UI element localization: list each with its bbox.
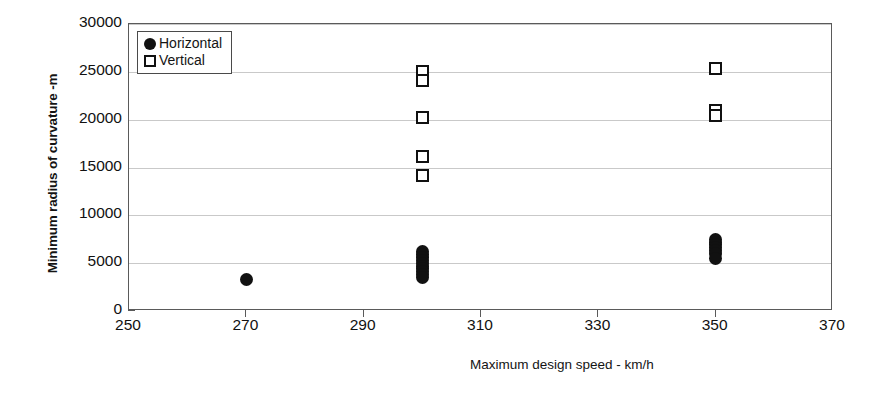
filled-circle-icon: [144, 38, 156, 50]
data-point-vertical: [709, 109, 722, 122]
y-tick-label-5000: 5000: [56, 252, 122, 270]
legend-item-label: Vertical: [159, 53, 205, 68]
data-point-vertical: [709, 62, 722, 75]
legend-item-vertical: Vertical: [144, 52, 222, 69]
x-axis-title: Maximum design speed - km/h: [470, 357, 654, 372]
y-tick-label-20000: 20000: [56, 109, 122, 127]
data-point-horizontal: [240, 273, 253, 286]
data-point-vertical: [416, 111, 429, 124]
y-tick-label-30000: 30000: [56, 13, 122, 31]
x-tick-label-290: 290: [333, 316, 393, 334]
legend-item-label: Horizontal: [159, 36, 222, 51]
chart-legend: HorizontalVertical: [137, 31, 232, 74]
gridline-5000: [129, 263, 831, 264]
data-point-horizontal: [709, 252, 722, 265]
y-tick-label-10000: 10000: [56, 204, 122, 222]
legend-item-horizontal: Horizontal: [144, 35, 222, 52]
data-point-vertical: [416, 169, 429, 182]
scatter-chart-figure: Minimum radius of curvature -m 050001000…: [0, 0, 878, 399]
gridline-25000: [129, 72, 831, 73]
gridline-20000: [129, 120, 831, 121]
x-tick-label-330: 330: [567, 316, 627, 334]
x-tick-label-270: 270: [215, 316, 275, 334]
gridline-10000: [129, 215, 831, 216]
open-square-icon: [144, 55, 156, 67]
x-tick-label-370: 370: [802, 316, 862, 334]
data-point-vertical: [416, 150, 429, 163]
y-tick-label-15000: 15000: [56, 157, 122, 175]
y-tick-mark-0: [128, 310, 135, 311]
y-tick-label-25000: 25000: [56, 61, 122, 79]
data-point-horizontal: [416, 271, 429, 284]
x-tick-label-350: 350: [685, 316, 745, 334]
x-tick-label-250: 250: [98, 316, 158, 334]
gridline-15000: [129, 168, 831, 169]
data-point-vertical: [416, 74, 429, 87]
x-tick-label-310: 310: [450, 316, 510, 334]
gridline-30000: [129, 24, 831, 25]
plot-area: [128, 23, 832, 310]
y-axis-tick-labels: 050001000015000200002500030000: [46, 0, 122, 399]
